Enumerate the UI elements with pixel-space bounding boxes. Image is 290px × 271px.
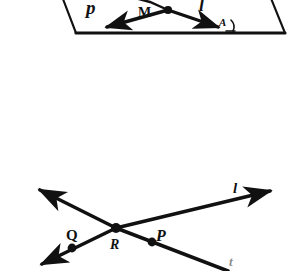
line-t-label: t <box>229 255 233 268</box>
geometry-figure-sheet: p M l A Q R P l t <box>0 0 290 271</box>
point-q-dot <box>68 244 77 253</box>
line-l-label: l <box>233 181 237 196</box>
point-q-label: Q <box>66 228 78 243</box>
intersecting-lines-graphic <box>0 0 290 271</box>
point-r-dot <box>111 223 121 233</box>
point-r-label: R <box>110 238 119 252</box>
point-p-label: P <box>156 228 166 244</box>
